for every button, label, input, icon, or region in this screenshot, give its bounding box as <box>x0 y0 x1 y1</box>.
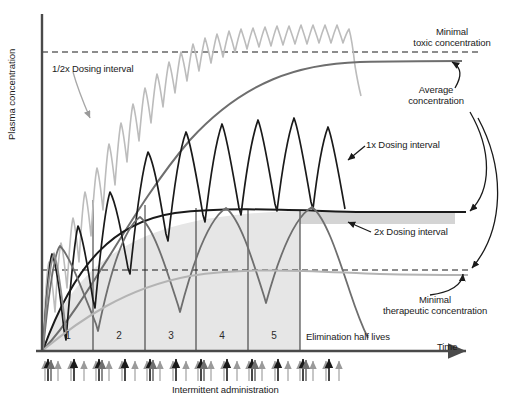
halflife-label-4: 4 <box>212 330 232 341</box>
annotation-half-dosing-interval: 1/2x Dosing interval <box>52 63 133 75</box>
halflife-label-5: 5 <box>264 330 284 341</box>
annotation-elimination-half-lives: Elimination half lives <box>306 331 390 343</box>
leader-min-therapeutic <box>430 274 463 295</box>
pharmacokinetics-figure: Plasma concentration Time Intermittent a… <box>0 0 520 405</box>
annotation-2x-dosing-interval: 2x Dosing interval <box>374 226 448 238</box>
annotation-1x-dosing-interval: 1x Dosing interval <box>366 139 440 151</box>
annotation-minimal-therapeutic-line2: therapeutic concentration <box>370 305 500 317</box>
leader-average-lower <box>472 118 498 268</box>
y-axis-label: Plasma concentration <box>6 0 17 140</box>
annotation-average-line1: Average <box>396 84 476 96</box>
halflife-label-3: 3 <box>161 330 181 341</box>
x-axis-sublabel: Intermittent administration <box>172 384 279 396</box>
administration-arrow-row <box>45 359 339 381</box>
annotation-minimal-therapeutic-line1: Minimal <box>370 294 500 306</box>
annotation-minimal-toxic-line2: toxic concentration <box>392 37 512 49</box>
leader-average-mid <box>470 112 487 211</box>
halflife-label-2: 2 <box>109 330 129 341</box>
x-axis-label: Time <box>437 341 457 353</box>
leader-1x-dose <box>348 146 365 160</box>
annotation-minimal-toxic-line1: Minimal <box>392 26 512 38</box>
halflife-label-1: 1 <box>58 330 78 341</box>
annotation-average-line2: concentration <box>396 95 476 107</box>
leader-half-dose <box>73 72 90 118</box>
